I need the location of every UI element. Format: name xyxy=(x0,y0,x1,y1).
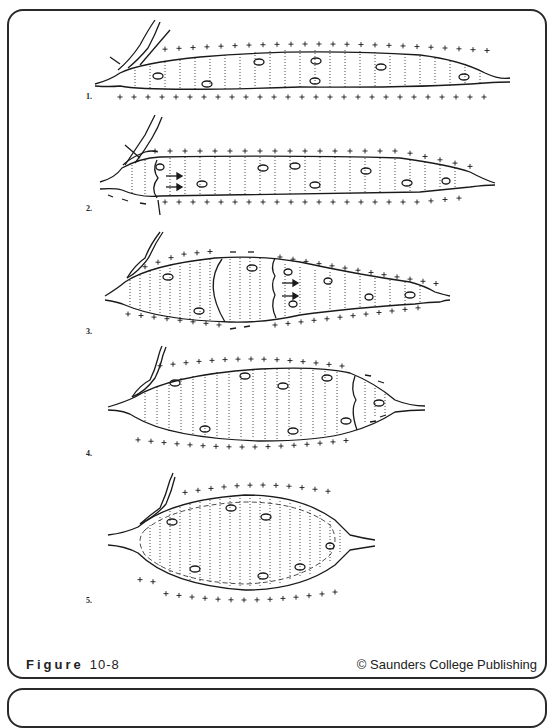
figure-caption: Figure10-8 xyxy=(26,657,120,672)
stage-label-5: 5. xyxy=(86,596,92,605)
stage-label-1: 1. xyxy=(86,92,92,101)
stage-3-fiber xyxy=(105,232,450,329)
stage-label-4: 4. xyxy=(86,449,92,458)
propagation-arrows xyxy=(282,280,298,299)
propagation-arrows xyxy=(166,173,182,190)
caption-number: 10-8 xyxy=(90,657,120,672)
stage-5-fiber xyxy=(108,473,375,590)
stage-1-fiber xyxy=(95,20,510,90)
caption-word: Figure xyxy=(26,657,84,672)
publisher-credit: © Saunders College Publishing xyxy=(357,657,537,672)
stage-2-fiber xyxy=(100,115,495,215)
stage-label-3: 3. xyxy=(86,327,92,336)
stage-4-fiber xyxy=(108,346,425,441)
charge-markers xyxy=(118,42,490,603)
stage-label-2: 2. xyxy=(86,204,92,213)
